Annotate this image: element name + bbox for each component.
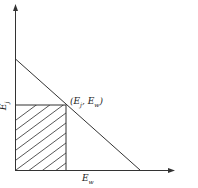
point-label: (Ej, Ew) [70,96,103,108]
shaded-area [16,80,70,188]
y-axis-label: Ej [0,102,10,110]
diagram-canvas [0,0,198,188]
x-axis-label: Ew [82,173,94,185]
y-axis-arrow-icon [13,4,18,11]
constraint-line [16,59,141,170]
x-axis-arrow-icon [168,168,175,173]
